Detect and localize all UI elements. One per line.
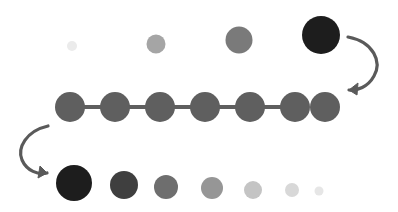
chain-dot-3 xyxy=(145,92,175,122)
chain-dot-7 xyxy=(310,92,340,122)
bottom-dot-3 xyxy=(154,175,178,199)
bottom-dot-5 xyxy=(244,181,262,199)
bottom-dot-2 xyxy=(110,171,138,199)
top-dot-4 xyxy=(302,16,340,54)
top-dot-1 xyxy=(67,41,77,51)
bottom-dot-4 xyxy=(201,177,223,199)
bottom-dot-6 xyxy=(285,183,299,197)
chain-dot-4 xyxy=(190,92,220,122)
diagram-svg: Dot size and shade progression diagram xyxy=(0,0,398,212)
bottom-dot-1 xyxy=(56,165,92,201)
chain-dot-6 xyxy=(280,92,310,122)
top-dot-3 xyxy=(226,27,253,54)
bottom-dot-7 xyxy=(315,187,324,196)
diagram-canvas: Dot size and shade progression diagram xyxy=(0,0,398,212)
chain-dot-1 xyxy=(55,92,85,122)
chain-dot-2 xyxy=(100,92,130,122)
chain-dot-5 xyxy=(235,92,265,122)
top-dot-2 xyxy=(147,35,166,54)
